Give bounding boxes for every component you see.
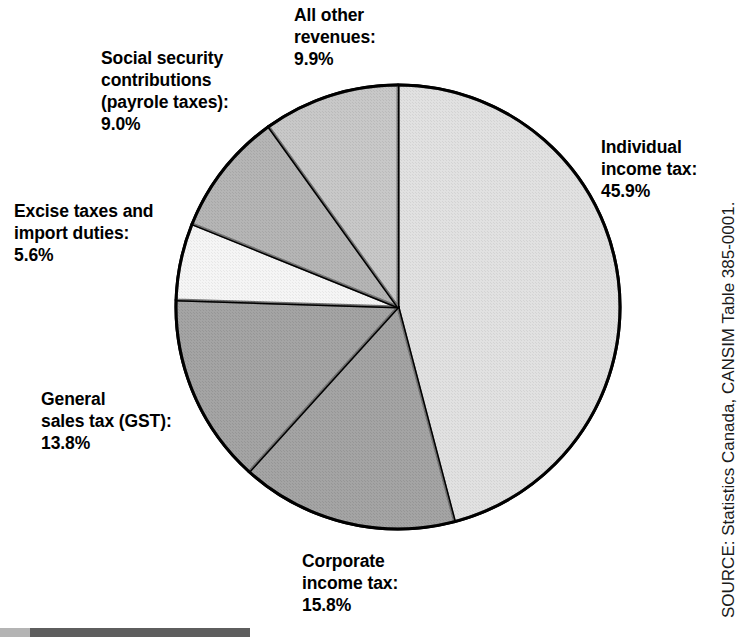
pie-label-excise-taxes-and-import-duties: Excise taxes and import duties: 5.6%	[14, 200, 214, 266]
bottom-rule-dark-segment	[30, 628, 250, 637]
pie-slice-group	[176, 85, 620, 529]
pie-chart-svg	[170, 79, 626, 535]
pie-label-general-sales-tax: General sales tax (GST): 13.8%	[41, 388, 231, 454]
source-note: SOURCE: Statistics Canada, CANSIM Table …	[716, 158, 742, 618]
bottom-rule-light-segment	[0, 628, 30, 637]
pie-label-all-other-revenues: All other revenues: 9.9%	[294, 4, 464, 70]
pie-label-social-security-contributions: Social security contributions (payrole t…	[101, 47, 316, 135]
pie-chart-figure: All other revenues: 9.9% Social security…	[0, 0, 746, 641]
pie-label-corporate-income-tax: Corporate income tax: 15.8%	[302, 550, 492, 616]
bottom-decorative-rule	[0, 628, 250, 637]
pie-chart	[170, 79, 626, 535]
